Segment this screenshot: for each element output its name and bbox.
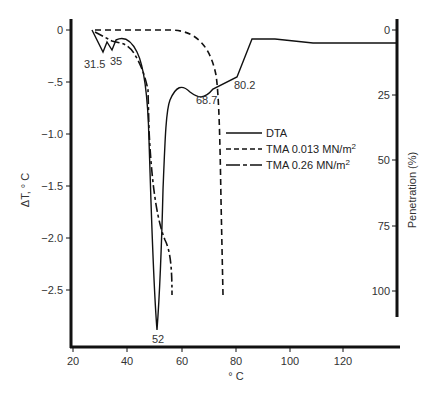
- x-tick-label: 60: [176, 355, 188, 367]
- x-axis-title: ° C: [228, 370, 243, 382]
- legend-item-tma-026: TMA 0.26 MN/m2: [226, 158, 350, 171]
- y-tick-label: −2.5: [41, 284, 63, 296]
- y-tick-label: 0: [57, 24, 63, 36]
- legend-label-dta: DTA: [266, 127, 288, 139]
- y-tick-label: −1.0: [41, 128, 63, 140]
- y-tick-label: −2.0: [41, 232, 63, 244]
- right-y-ticks: 0 25 50 75 100: [372, 24, 397, 297]
- x-ticks: 20 40 60 80 100 120: [67, 347, 352, 367]
- y-axis-title: ΔT, ° C: [19, 173, 31, 207]
- x-tick-label: 40: [121, 355, 133, 367]
- series-tma-0013: [95, 30, 223, 295]
- x-tick-label: 100: [281, 355, 299, 367]
- y2-tick-label: 0: [384, 24, 390, 36]
- chart-figure: 0 −.5 −1.0 −1.5 −2.0 −2.5 20 40 60 80 10…: [0, 0, 436, 395]
- y2-tick-label: 75: [378, 220, 390, 232]
- x-tick-label: 80: [230, 355, 242, 367]
- annotation-31-5: 31.5: [84, 58, 105, 70]
- legend: DTA TMA 0.013 MN/m2 TMA 0.26 MN/m2: [226, 127, 357, 171]
- y2-axis-title: Penetration (%): [406, 152, 418, 228]
- annotation-68-7: 68.7: [196, 94, 217, 106]
- y-tick-label: −1.5: [41, 180, 63, 192]
- y2-tick-label: 25: [378, 89, 390, 101]
- legend-item-dta: DTA: [226, 127, 288, 139]
- y-tick-label: −.5: [47, 76, 63, 88]
- annotation-35: 35: [110, 55, 122, 67]
- legend-item-tma-0013: TMA 0.013 MN/m2: [226, 142, 357, 155]
- y2-tick-label: 50: [378, 154, 390, 166]
- annotation-80-2: 80.2: [234, 79, 255, 91]
- legend-label-tma-026: TMA 0.26 MN/m2: [266, 158, 350, 171]
- legend-label-tma-0013: TMA 0.013 MN/m2: [266, 142, 357, 155]
- series-dta: [92, 30, 397, 330]
- left-y-ticks: 0 −.5 −1.0 −1.5 −2.0 −2.5: [41, 24, 71, 296]
- annotation-52: 52: [152, 333, 164, 345]
- y2-tick-label: 100: [372, 285, 390, 297]
- x-tick-label: 20: [67, 355, 79, 367]
- x-tick-label: 120: [334, 355, 352, 367]
